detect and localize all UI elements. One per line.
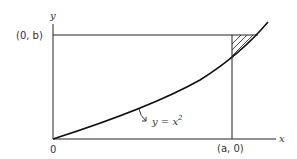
x-axis-label: x	[279, 133, 285, 144]
y-axis-label: y	[49, 10, 56, 21]
curve-label-exponent: 2	[177, 114, 183, 122]
curve-label: y = x2	[151, 114, 183, 127]
origin-label: 0	[50, 144, 56, 155]
curve-pointer-arrow-icon	[139, 109, 146, 121]
curve-label-base: y = x	[151, 116, 178, 127]
point-a-label: (a, 0)	[217, 143, 244, 154]
point-b-label: (0, b)	[16, 30, 43, 41]
diagram-canvas: y x 0 (0, b) (a, 0) y = x2	[0, 0, 297, 159]
